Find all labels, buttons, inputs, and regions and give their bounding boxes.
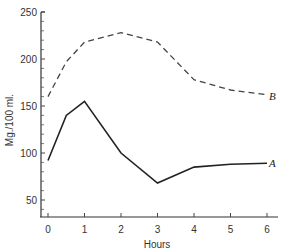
series-b-line (48, 33, 267, 97)
series-b-label: B (269, 90, 276, 102)
series-a-label: A (268, 157, 276, 169)
x-tick-label-5: 5 (228, 224, 234, 235)
x-tick-label-2: 2 (118, 224, 124, 235)
y-tick-label-100: 100 (20, 148, 37, 159)
x-tick-label-6: 6 (264, 224, 270, 235)
y-axis-title: Mg./100 ml. (4, 94, 15, 146)
y-tick-label-50: 50 (26, 195, 38, 206)
x-tick-label-4: 4 (191, 224, 197, 235)
y-minor-ticks (41, 21, 44, 209)
y-tick-label-250: 250 (20, 7, 37, 18)
y-tick-label-200: 200 (20, 54, 37, 65)
y-tick-label-150: 150 (20, 101, 37, 112)
x-tick-label-0: 0 (45, 224, 51, 235)
x-axis-title: Hours (144, 239, 171, 250)
x-tick-label-3: 3 (155, 224, 161, 235)
x-tick-label-1: 1 (82, 224, 88, 235)
series-a-line (48, 101, 267, 183)
line-chart: 50 100 150 200 250 0 1 2 3 4 5 6 Hours M… (0, 0, 285, 251)
